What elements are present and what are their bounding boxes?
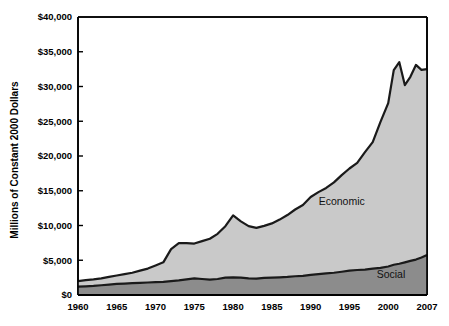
y-axis-title: Millions of Constant 2000 Dollars (9, 81, 20, 239)
x-tick-label: 1990 (300, 301, 321, 312)
y-tick-label: $25,000 (38, 116, 72, 127)
x-tick-label: 1975 (184, 301, 206, 312)
x-tick-label: 2007 (416, 301, 437, 312)
y-axis-tick-labels: $0$5,000$10,000$15,000$20,000$25,000$30,… (38, 11, 72, 300)
chart-canvas: Millions of Constant 2000 Dollars $0$5,0… (0, 0, 449, 326)
y-tick-label: $5,000 (43, 255, 72, 266)
y-tick-label: $40,000 (38, 11, 72, 22)
x-tick-label: 1970 (145, 301, 166, 312)
y-tick-label: $35,000 (38, 46, 72, 57)
y-tick-label: $15,000 (38, 185, 72, 196)
area-chart: Millions of Constant 2000 Dollars $0$5,0… (0, 0, 449, 326)
y-tick-label: $10,000 (38, 220, 72, 231)
x-tick-label: 2000 (378, 301, 399, 312)
x-tick-label: 1980 (223, 301, 244, 312)
y-tick-label: $0 (61, 289, 72, 300)
y-tick-label: $20,000 (38, 150, 72, 161)
x-tick-label: 1985 (261, 301, 283, 312)
y-tick-label: $30,000 (38, 81, 72, 92)
x-tick-label: 1960 (67, 301, 88, 312)
x-tick-label: 1965 (106, 301, 128, 312)
series-label-economic: Economic (319, 195, 365, 207)
x-tick-label: 1995 (339, 301, 361, 312)
series-label-social: Social (377, 268, 406, 280)
